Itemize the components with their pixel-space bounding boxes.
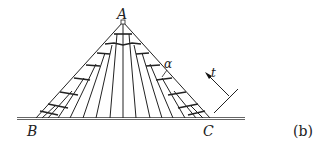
streamlines: [42, 24, 203, 118]
direction-t-label: t: [211, 66, 216, 80]
direction-vector: [208, 75, 238, 113]
vertex-a-label: A: [115, 6, 127, 22]
vertex-c-label: C: [203, 123, 214, 139]
panel-label: (b): [293, 123, 313, 139]
ground-line: [17, 118, 245, 120]
alpha-tick: [162, 70, 167, 77]
triangle-diagram: α t A B C (b): [0, 0, 336, 150]
angle-alpha-label: α: [164, 57, 172, 71]
vertex-b-label: B: [26, 123, 37, 139]
